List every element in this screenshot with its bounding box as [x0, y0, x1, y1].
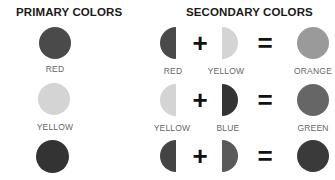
- primary-yellow-label: YELLOW: [25, 122, 85, 132]
- row1-equals-icon: =: [255, 30, 275, 56]
- primary-red-circle: [39, 27, 71, 59]
- row2-result-label: GREEN: [283, 123, 335, 133]
- row1-result-circle: [297, 27, 329, 59]
- row2-plus-icon: +: [190, 87, 210, 113]
- row1-left-label: RED: [143, 66, 203, 76]
- row1-result-label: ORANGE: [283, 66, 335, 76]
- row1-right-half-circle: [222, 27, 238, 59]
- row2-result-circle: [297, 84, 329, 116]
- row3-result-circle: [297, 140, 329, 172]
- secondary-colors-title: SECONDARY COLORS: [186, 6, 313, 18]
- row1-right-label: YELLOW: [196, 66, 256, 76]
- row2-left-label: YELLOW: [142, 123, 202, 133]
- row3-right-half-circle: [222, 140, 238, 172]
- row1-plus-icon: +: [190, 30, 210, 56]
- primary-colors-title: PRIMARY COLORS: [16, 6, 122, 18]
- row2-right-label: BLUE: [198, 123, 258, 133]
- row3-equals-icon: =: [255, 143, 275, 169]
- primary-yellow-circle: [38, 83, 70, 115]
- row3-left-half-circle: [160, 140, 176, 172]
- primary-blue-circle: [36, 140, 69, 173]
- row2-left-half-circle: [160, 84, 176, 116]
- row1-left-half-circle: [160, 27, 176, 59]
- primary-red-label: RED: [25, 64, 85, 74]
- row2-right-half-circle: [222, 84, 238, 116]
- row2-equals-icon: =: [255, 87, 275, 113]
- row3-plus-icon: +: [190, 143, 210, 169]
